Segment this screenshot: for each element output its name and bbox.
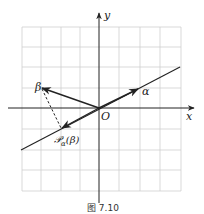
grid [22, 27, 181, 191]
beta-label: β [35, 82, 41, 93]
y-axis-label: y [104, 10, 110, 21]
alpha-vector [99, 89, 138, 108]
figure-caption: 图 7.10 [87, 204, 119, 213]
projection-script: 𝒫 [54, 134, 61, 145]
diagram-canvas [0, 0, 204, 214]
beta-vector [42, 88, 99, 108]
projection-label: 𝒫α(β) [54, 135, 79, 148]
alpha-label: α [142, 86, 149, 97]
projection-arg: (β) [66, 134, 80, 145]
origin-label: O [101, 111, 110, 122]
projection-vector [62, 108, 99, 128]
x-axis-label: x [186, 111, 192, 122]
